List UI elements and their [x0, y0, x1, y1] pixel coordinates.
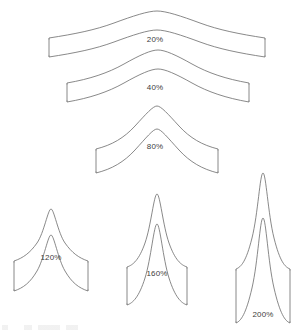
shape-group-160: 160% — [127, 194, 187, 305]
band-label-120: 120% — [41, 253, 62, 262]
band-inner-outline-200 — [236, 218, 290, 323]
band-label-20: 20% — [147, 35, 163, 44]
shape-group-40: 40% — [67, 50, 249, 102]
shape-group-200: 200% — [236, 173, 290, 323]
band-label-80: 80% — [147, 142, 163, 151]
band-label-160: 160% — [147, 269, 168, 278]
band-label-200: 200% — [253, 310, 274, 319]
shape-group-120: 120% — [14, 209, 88, 291]
band-inner-outline-120 — [14, 235, 88, 291]
band-label-40: 40% — [147, 83, 163, 92]
figure-container: 20% 40% 80% 120% — [0, 0, 292, 331]
profile-shapes-figure: 20% 40% 80% 120% — [0, 0, 292, 331]
shape-group-80: 80% — [96, 106, 218, 173]
